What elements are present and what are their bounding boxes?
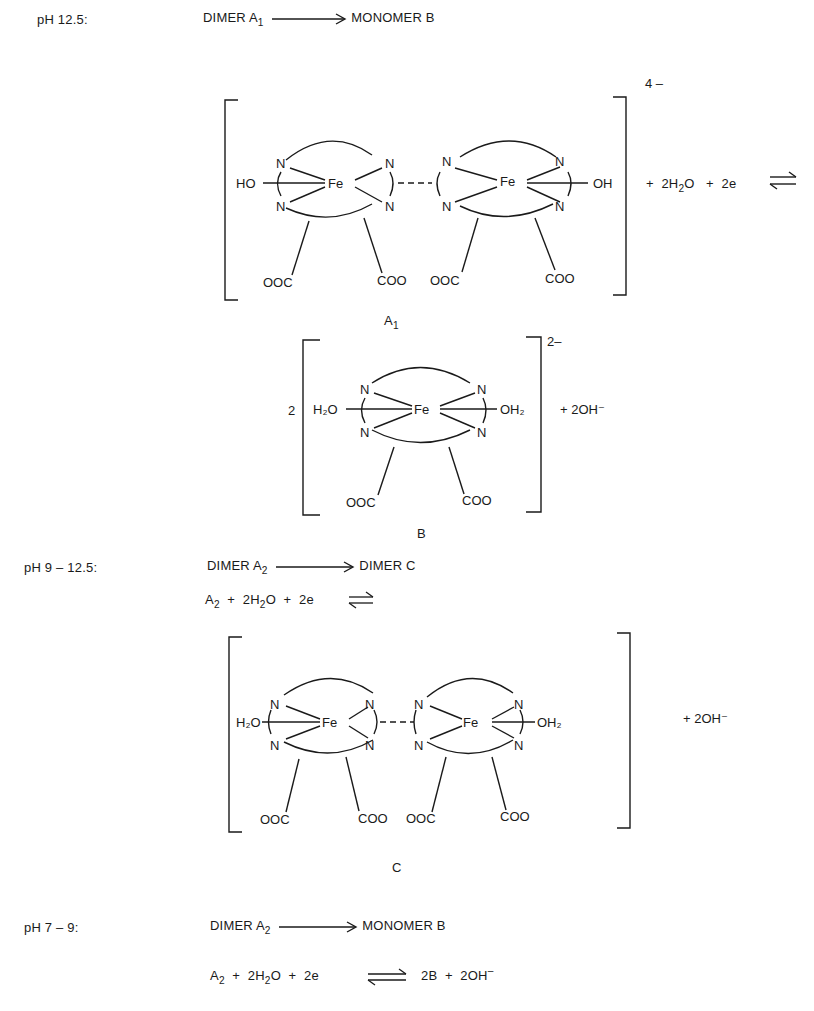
carboxylate: COO [500, 809, 530, 824]
carboxylate: COO [358, 811, 388, 826]
summary-reaction-9-12-5: DIMER A2 DIMER C [207, 558, 416, 573]
ligand-left: H₂O [313, 402, 338, 417]
donor-n: N [360, 382, 369, 397]
ph-label-9-12-5: pH 9 – 12.5: [24, 560, 97, 575]
metal-fe: Fe [322, 715, 337, 730]
carboxylate: OOC [263, 275, 293, 290]
summary-reaction-7-9: DIMER A2 MONOMER B [210, 918, 446, 933]
donor-n: N [270, 697, 279, 712]
equilibrium-arrow-icon [770, 172, 796, 189]
equation-7-9-rhs: 2B + 2OH– [421, 968, 494, 983]
structure-label-a1: A1 [384, 313, 399, 328]
donor-n: N [270, 738, 279, 753]
metal-fe: Fe [328, 176, 343, 191]
donor-n: N [555, 154, 564, 169]
charge-2minus: 2– [547, 334, 562, 349]
donor-n: N [360, 425, 369, 440]
charge-4minus: 4 – [645, 76, 664, 91]
carboxylate: OOC [430, 273, 460, 288]
donor-n: N [514, 738, 523, 753]
donor-n: N [365, 738, 374, 753]
ligand-right: OH [593, 176, 613, 191]
hydroxide-product: + 2OH⁻ [560, 402, 605, 417]
reactant-dimer-a2: DIMER A2 [207, 558, 268, 573]
structure-a1 [225, 97, 796, 300]
hydroxide-product: + 2OH⁻ [683, 711, 728, 726]
metal-fe: Fe [414, 402, 429, 417]
carboxylate: OOC [406, 811, 436, 826]
structure-label-b: B [417, 526, 426, 541]
donor-n: N [442, 154, 451, 169]
carboxylate: COO [462, 493, 492, 508]
left-bracket-icon [229, 637, 242, 832]
donor-n: N [365, 697, 374, 712]
donor-n: N [385, 156, 394, 171]
donor-n: N [276, 199, 285, 214]
donor-n: N [477, 382, 486, 397]
carboxylate: OOC [260, 812, 290, 827]
long-right-arrow-icon [272, 561, 356, 573]
structure-c [229, 633, 630, 832]
reactant-dimer-a2: DIMER A2 [210, 918, 271, 933]
right-bracket-icon [613, 97, 626, 295]
metal-fe: Fe [500, 174, 515, 189]
donor-n: N [414, 738, 423, 753]
structure-diagram-canvas: N N N N Fe HO N N N N Fe OH OOC COO OOC … [0, 0, 814, 1011]
ligand-left: HO [236, 176, 256, 191]
equilibrium-arrow-icon [368, 969, 406, 985]
metal-fe: Fe [463, 715, 478, 730]
donor-n: N [276, 156, 285, 171]
ligand-right: OH₂ [537, 715, 562, 730]
structure-b [303, 337, 541, 515]
donor-n: N [514, 697, 523, 712]
carboxylate: OOC [346, 495, 376, 510]
equilibrium-arrow-icon [349, 592, 373, 608]
left-bracket-icon [303, 340, 320, 515]
donor-n: N [555, 199, 564, 214]
long-right-arrow-icon [275, 921, 359, 933]
left-bracket-icon [225, 100, 238, 300]
carboxylate: COO [545, 271, 575, 286]
carboxylate: COO [377, 273, 407, 288]
structure-c-labels: N N N N Fe H₂O N N N N Fe OH₂ OOC COO OO… [236, 697, 728, 875]
stoich-coefficient: 2 [288, 403, 295, 418]
a1-right-hand-side: + 2H2O + 2e [646, 176, 736, 191]
product-dimer-c: DIMER C [359, 558, 415, 573]
donor-n: N [477, 425, 486, 440]
structure-label-c: C [392, 860, 401, 875]
product-monomer-b: MONOMER B [362, 918, 445, 933]
equation-7-9-lhs: A2 + 2H2O + 2e [210, 968, 319, 983]
ph-label-7-9: pH 7 – 9: [24, 920, 79, 935]
donor-n: N [414, 697, 423, 712]
equation-9-12-5: A2 + 2H2O + 2e [205, 592, 314, 607]
structure-b-labels: 2 N N N N Fe H₂O OH₂ OOC COO 2– + 2OH⁻ B [288, 334, 605, 541]
ligand-right: OH₂ [500, 402, 525, 417]
donor-n: N [442, 199, 451, 214]
ligand-left: H₂O [236, 715, 261, 730]
donor-n: N [385, 199, 394, 214]
